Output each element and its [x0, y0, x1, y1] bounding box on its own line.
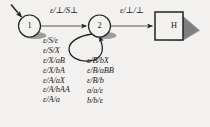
self-loop-label-column-right: ε/B/bX ε/B/aBB ε/B/b a/a/ε b/b/ε	[87, 57, 114, 106]
state-1-label: 1	[24, 22, 36, 30]
state-2-label: 2	[94, 22, 106, 30]
halt-state-label: H	[167, 22, 181, 30]
start-arrow	[11, 5, 22, 18]
self-loop-label: b/b/ε	[87, 97, 114, 107]
self-loop-label: ε/A/a	[43, 96, 70, 106]
transition-2-to-halt-label: ε/⊥/⊥	[120, 6, 144, 15]
pda-state-diagram: 1 2 H ε/⊥/S⊥ ε/⊥/⊥ ε/S/ε ε/S/X ε/X/aB ε/…	[0, 0, 210, 127]
self-loop-label-column-left: ε/S/ε ε/S/X ε/X/aB ε/X/bA ε/A/aX ε/A/bAA…	[43, 37, 70, 106]
transition-1-to-2-label: ε/⊥/S⊥	[50, 6, 78, 15]
